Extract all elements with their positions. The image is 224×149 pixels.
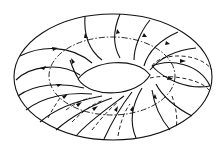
arrow-icon — [116, 29, 120, 34]
meridian-front — [152, 63, 210, 87]
torus-diagram — [0, 0, 224, 149]
arrow-icon — [92, 106, 98, 111]
arrow-icon — [130, 106, 133, 112]
core-circle — [49, 37, 175, 115]
hidden-lines — [48, 96, 177, 136]
arrow-icon — [40, 66, 46, 70]
arrow-icon — [114, 106, 118, 112]
arrow-icon — [56, 84, 62, 87]
arrow-icon — [165, 41, 170, 45]
arrow-icon — [142, 33, 147, 37]
arrow-icon — [180, 59, 186, 63]
torus-inner-hole — [78, 63, 150, 93]
flow-arrowheads — [40, 29, 186, 112]
flow-lines-upper — [16, 14, 196, 80]
